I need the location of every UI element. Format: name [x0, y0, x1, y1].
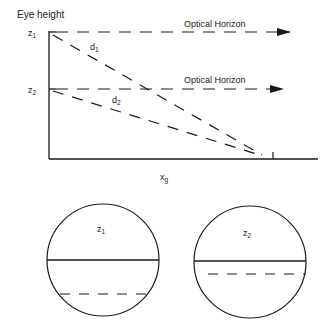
- sight-line-d1: [53, 35, 262, 155]
- eye-height-diagram: Eye height z1 z2 Optical Horizon Optical…: [0, 0, 329, 333]
- svg-text:z1: z1: [28, 28, 37, 39]
- optical-horizon-label-1: Optical Horizon: [184, 19, 246, 29]
- x-axis-label: xg: [160, 172, 169, 184]
- sight-line-label-d2: d2: [112, 95, 121, 106]
- view-circle-z1: z1: [47, 204, 159, 316]
- view-label-z1: z1: [97, 224, 106, 235]
- y-axis-title: Eye height: [17, 9, 64, 20]
- height-label-z2: z2: [28, 85, 37, 96]
- height-label-z1: z1: [28, 28, 37, 39]
- optical-horizon-label-2: Optical Horizon: [184, 75, 246, 85]
- svg-text:d2: d2: [112, 95, 121, 106]
- sight-line-d2: [53, 91, 260, 155]
- view-label-z2: z2: [243, 228, 252, 239]
- svg-text:z2: z2: [28, 85, 37, 96]
- svg-text:xg: xg: [160, 172, 169, 184]
- svg-text:d1: d1: [90, 42, 99, 53]
- sight-line-label-d1: d1: [90, 42, 99, 53]
- view-circle-z2: z2: [194, 206, 306, 318]
